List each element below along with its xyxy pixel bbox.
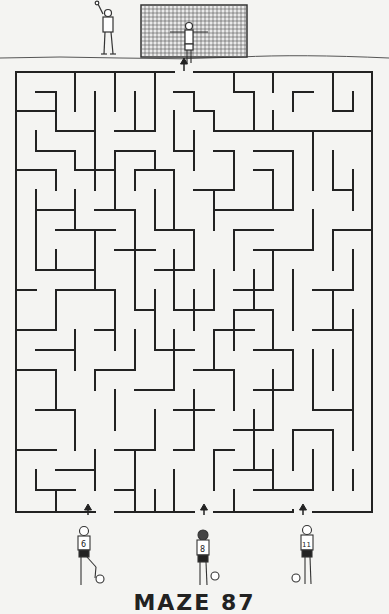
svg-text:11: 11 [302,541,311,549]
start-arrow-icon-2 [201,504,208,515]
maze-title: MAZE 87 [0,590,389,614]
start-arrow-icon-3 [300,504,307,515]
player-8-icon[interactable]: 8 [197,530,219,585]
start-arrow-icon-1 [85,504,92,515]
player-11-icon[interactable]: 11 [292,526,313,585]
svg-text:6: 6 [81,540,86,549]
coach-icon [95,1,116,54]
svg-text:8: 8 [200,545,205,554]
player-6-icon[interactable]: 6 [78,527,104,586]
goal-net-icon [141,5,247,57]
maze-walls [16,72,372,512]
